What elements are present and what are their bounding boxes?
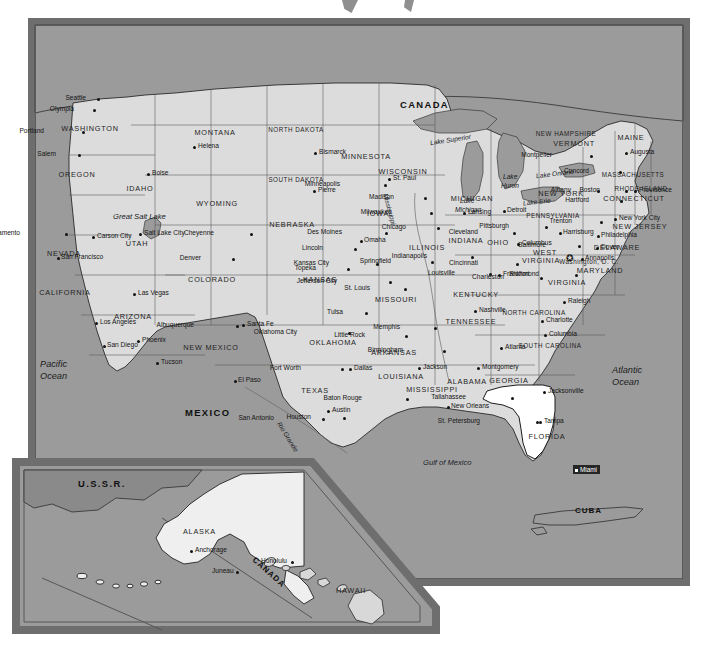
- contiguous-us-land: [69, 83, 653, 461]
- alaska-hawaii-inset[interactable]: U.S.S.R. ALASKA CANADA HAWAII Anchorage …: [12, 458, 440, 634]
- artifact-fragment-right: [404, 0, 414, 12]
- selection-marker-dot: [575, 469, 578, 472]
- city-label-sacramento: Sacramento: [0, 230, 20, 237]
- selection-miami[interactable]: Miami: [573, 465, 600, 474]
- artifact-fragment-left: [342, 0, 358, 13]
- cuba-small-island: [531, 527, 547, 535]
- inset-geometry: [12, 458, 440, 634]
- cuba-island: [533, 507, 643, 525]
- map-screenshot: Miami CANADA MEXICO CUBA Pacific Ocean A…: [0, 0, 713, 650]
- selection-label: Miami: [580, 466, 597, 473]
